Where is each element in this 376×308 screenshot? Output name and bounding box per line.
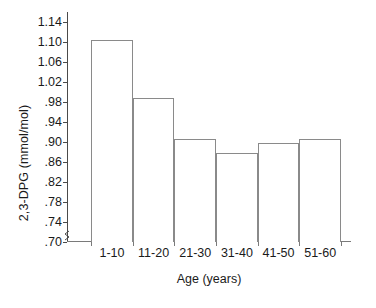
- y-axis-tick-mark: [63, 102, 67, 103]
- bar: [258, 143, 300, 243]
- y-axis-tick-mark: [63, 202, 67, 203]
- bar: [91, 40, 133, 243]
- y-axis-tick-label-group: .70.74.78.82.86.90.94.981.021.061.101.14: [18, 12, 67, 242]
- y-axis-tick-label: 1.10: [38, 36, 62, 48]
- y-axis-tick-label: .70: [45, 236, 62, 248]
- y-axis-tick-label: 1.02: [38, 76, 62, 88]
- bar: [216, 153, 258, 242]
- x-axis-tick-label-group: 1-1011-2021-3031-4041-5051-60: [67, 246, 351, 264]
- plot-area: [67, 12, 351, 242]
- y-axis-tick-label: .94: [45, 116, 62, 128]
- y-axis-tick-mark: [63, 22, 67, 23]
- y-axis-tick-mark: [63, 82, 67, 83]
- x-axis-tick-label: 41-50: [258, 246, 300, 261]
- bar: [299, 139, 341, 243]
- bar: [174, 139, 216, 242]
- y-axis-tick-mark: [63, 162, 67, 163]
- y-axis-tick-mark: [63, 182, 67, 183]
- x-axis-tick-label: 21-30: [174, 246, 216, 261]
- y-axis-tick-label: .90: [45, 136, 62, 148]
- y-axis-tick-mark: [63, 122, 67, 123]
- y-axis-tick-label: .74: [45, 216, 62, 228]
- y-axis-tick-mark: [63, 242, 67, 243]
- x-axis-tick-label: 11-20: [133, 246, 175, 261]
- y-axis-tick-mark: [63, 222, 67, 223]
- y-axis-tick-label: .82: [45, 176, 62, 188]
- bar: [133, 98, 175, 242]
- y-axis-tick-mark: [63, 42, 67, 43]
- y-axis-tick-label: .98: [45, 96, 62, 108]
- y-axis-line: [67, 12, 68, 242]
- y-axis-tick-label: 1.06: [38, 56, 62, 68]
- y-axis-tick-label: .86: [45, 156, 62, 168]
- y-axis-tick-label: .78: [45, 196, 62, 208]
- y-axis-tick-mark: [63, 142, 67, 143]
- y-axis-tick-mark: [63, 62, 67, 63]
- y-axis-tick-label: 1.14: [38, 16, 62, 28]
- x-axis-tick-label: 1-10: [91, 246, 133, 261]
- x-axis-tick-label: 51-60: [299, 246, 341, 261]
- axis-break-icon: [64, 230, 71, 241]
- x-axis-tick-label: 31-40: [216, 246, 258, 261]
- bar-chart-figure: 2,3-DPG (mmol/mol) .70.74.78.82.86.90.94…: [0, 0, 376, 308]
- x-axis-title: Age (years): [67, 272, 351, 286]
